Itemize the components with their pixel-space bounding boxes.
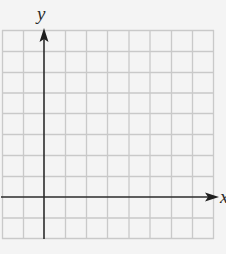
x-axis — [1, 193, 219, 202]
grid-graphic — [0, 0, 226, 254]
x-axis-label: x — [220, 187, 226, 206]
y-axis — [40, 28, 49, 239]
y-axis-label: y — [37, 4, 45, 23]
grid-lines — [2, 30, 214, 239]
coordinate-plane: y x — [0, 0, 226, 254]
